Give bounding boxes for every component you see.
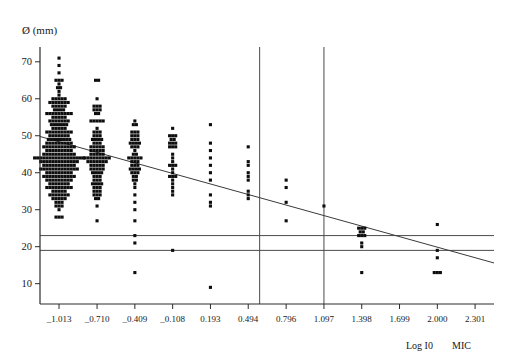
data-point xyxy=(97,112,100,115)
data-point xyxy=(61,134,64,137)
data-point xyxy=(100,182,103,185)
data-point xyxy=(92,167,95,170)
data-point xyxy=(61,175,64,178)
data-point xyxy=(285,186,288,189)
data-point xyxy=(83,156,86,159)
data-point xyxy=(54,142,57,145)
data-point xyxy=(99,149,102,152)
data-point xyxy=(73,145,76,148)
data-point xyxy=(76,167,79,170)
data-point xyxy=(102,160,105,163)
data-point xyxy=(57,186,60,189)
data-point xyxy=(96,108,99,111)
data-point xyxy=(171,182,174,185)
y-axis-label: Ø (mm) xyxy=(22,24,57,37)
data-point xyxy=(99,131,102,134)
data-point xyxy=(73,153,76,156)
data-point xyxy=(50,138,53,141)
x-tick-label: _0.108 xyxy=(159,314,185,324)
data-point xyxy=(61,149,64,152)
data-point xyxy=(285,219,288,222)
data-point xyxy=(92,119,95,122)
data-point xyxy=(64,186,67,189)
data-point xyxy=(436,271,439,274)
data-point xyxy=(96,149,99,152)
data-point xyxy=(61,142,64,145)
data-point xyxy=(48,193,51,196)
data-point xyxy=(436,256,439,259)
data-point xyxy=(57,64,60,67)
data-point xyxy=(135,153,138,156)
data-point xyxy=(61,201,64,204)
data-point xyxy=(174,145,177,148)
data-point xyxy=(132,142,135,145)
data-point xyxy=(171,134,174,137)
data-point xyxy=(136,164,139,167)
x-tick-label: 1.097 xyxy=(314,314,335,324)
data-point xyxy=(89,153,92,156)
data-point xyxy=(97,182,100,185)
data-point xyxy=(171,193,174,196)
data-point xyxy=(54,116,57,119)
data-point xyxy=(89,167,92,170)
data-point xyxy=(96,145,99,148)
data-point xyxy=(48,149,51,152)
data-point xyxy=(92,153,95,156)
data-point xyxy=(171,190,174,193)
data-point xyxy=(91,138,94,141)
data-point xyxy=(96,179,99,182)
data-point xyxy=(45,142,48,145)
data-point xyxy=(48,179,51,182)
data-point xyxy=(102,153,105,156)
data-point xyxy=(70,186,73,189)
data-point xyxy=(209,142,212,145)
data-point xyxy=(168,164,171,167)
data-point xyxy=(57,101,60,104)
data-point xyxy=(247,164,250,167)
data-point xyxy=(54,216,57,219)
data-point xyxy=(67,160,70,163)
data-point xyxy=(70,153,73,156)
data-point xyxy=(61,105,64,108)
data-point xyxy=(59,86,62,89)
data-point xyxy=(67,153,70,156)
data-point xyxy=(174,175,177,178)
data-point xyxy=(54,79,57,82)
data-point xyxy=(99,186,102,189)
data-point xyxy=(96,160,99,163)
data-point xyxy=(136,134,139,137)
data-point xyxy=(360,271,363,274)
x-axis-label-prefix: Log I0 xyxy=(406,340,433,351)
data-point xyxy=(135,142,138,145)
data-point xyxy=(99,175,102,178)
data-point xyxy=(51,197,54,200)
data-point xyxy=(54,156,57,159)
data-point xyxy=(96,175,99,178)
data-point xyxy=(96,119,99,122)
data-point xyxy=(96,97,99,100)
data-point xyxy=(62,123,65,126)
data-point xyxy=(51,156,54,159)
data-point xyxy=(130,131,133,134)
x-tick-label: _0.409 xyxy=(121,314,147,324)
data-point xyxy=(70,149,73,152)
data-point xyxy=(64,116,67,119)
data-point xyxy=(61,179,64,182)
data-point xyxy=(99,108,102,111)
data-point xyxy=(59,108,62,111)
data-point xyxy=(76,160,79,163)
data-point xyxy=(51,171,54,174)
data-point xyxy=(57,79,60,82)
data-point xyxy=(285,201,288,204)
data-point xyxy=(48,153,51,156)
data-point xyxy=(97,138,100,141)
data-point xyxy=(64,112,67,115)
data-point xyxy=(130,156,133,159)
data-point xyxy=(133,219,136,222)
data-point xyxy=(96,190,99,193)
data-point xyxy=(64,175,67,178)
data-point xyxy=(67,164,70,167)
data-point xyxy=(57,145,60,148)
data-point xyxy=(56,108,59,111)
data-point xyxy=(133,234,136,237)
